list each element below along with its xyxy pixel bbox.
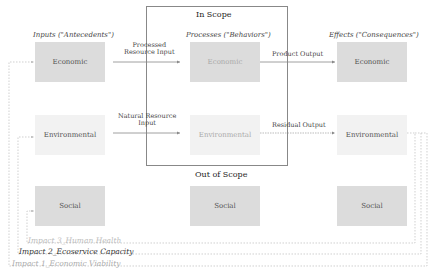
natural-input-label: Natural Resource Input: [118, 113, 176, 127]
residual-output-label: Residual Output: [272, 122, 326, 129]
impact-1-label: Impact 1_Economic Viability: [12, 259, 121, 268]
processed-input-label: Processed Resource Input: [124, 42, 175, 56]
effect-economic-node: Economic: [337, 42, 407, 82]
impact-3-label: Impact 3_Human Health: [28, 236, 121, 245]
product-output-label: Product Output: [272, 51, 323, 58]
input-social-node: Social: [35, 186, 105, 226]
input-economic-node: Economic: [35, 42, 105, 82]
inputs-header: Inputs ("Antecedents"): [33, 31, 114, 39]
process-economic-node: Economic: [190, 42, 260, 82]
process-environmental-node: Environmental: [190, 115, 260, 155]
process-social-node: Social: [190, 186, 260, 226]
effect-social-node: Social: [337, 186, 407, 226]
processes-header: Processes ("Behaviors"): [186, 31, 271, 39]
effect-environmental-node: Environmental: [337, 115, 407, 155]
input-environmental-node: Environmental: [35, 115, 105, 155]
effects-header: Effects ("Consequences"): [329, 31, 419, 39]
in-scope-label: In Scope: [196, 10, 232, 19]
impact-2-label: Impact 2_Ecoservice Capacity: [19, 247, 134, 256]
out-of-scope-label: Out of Scope: [195, 170, 247, 179]
